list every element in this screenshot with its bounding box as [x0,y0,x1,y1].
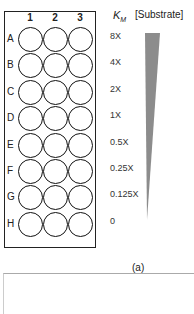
well-a3 [68,27,93,52]
well-e3 [68,133,93,158]
km-value-4: 0.5X [110,137,129,147]
row-label-b: B [7,59,17,70]
well-f3 [68,159,93,184]
well-c1 [18,80,43,105]
well-h1 [18,212,43,237]
km-value-7: 0 [110,216,115,226]
km-value-6: 0.125X [110,189,139,199]
well-c2 [43,80,68,105]
km-value-3: 1X [110,110,121,120]
km-value-5: 0.25X [110,163,134,173]
well-f1 [18,159,43,184]
well-h2 [43,212,68,237]
well-e2 [43,133,68,158]
km-header: KM [113,9,126,23]
row-label-c: C [7,86,17,97]
row-label-a: A [7,33,17,44]
row-label-g: G [7,191,17,202]
well-e1 [18,133,43,158]
column-label-2: 2 [50,12,60,23]
row-label-e: E [7,139,17,150]
well-c3 [68,80,93,105]
panel-b-frame [3,273,194,314]
well-a1 [18,27,43,52]
substrate-gradient-wedge [143,30,163,230]
row-label-f: F [7,165,17,176]
column-label-3: 3 [75,12,85,23]
substrate-header: [Substrate] [135,9,183,20]
figure-caption: (a) [132,262,144,273]
row-label-h: H [7,218,17,229]
well-f2 [43,159,68,184]
km-value-1: 4X [110,57,121,67]
well-h3 [68,212,93,237]
km-value-0: 8X [110,31,121,41]
km-value-2: 2X [110,84,121,94]
well-a2 [43,27,68,52]
row-label-d: D [7,112,17,123]
column-label-1: 1 [25,12,35,23]
